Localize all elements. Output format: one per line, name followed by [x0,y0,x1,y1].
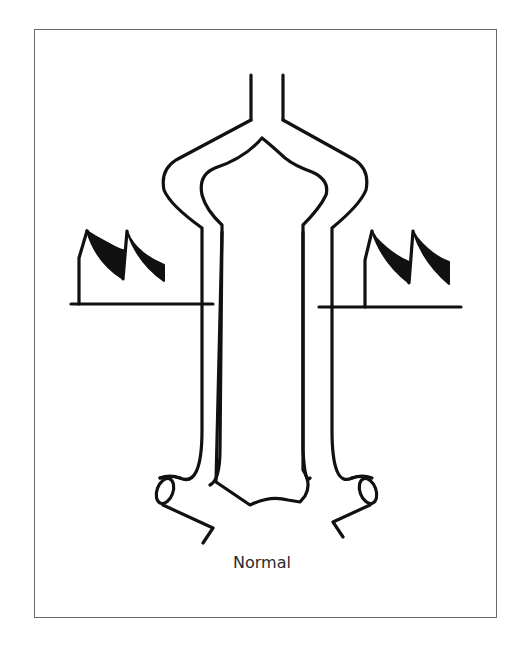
outer-wall-right [283,120,370,479]
vessel-diagram [0,0,524,648]
vessel-neck [251,75,283,120]
right-branch [333,476,380,537]
right-waveform [365,231,449,307]
left-waveform [79,231,164,304]
figure-caption: Normal [0,553,524,572]
left-branch [153,476,213,543]
